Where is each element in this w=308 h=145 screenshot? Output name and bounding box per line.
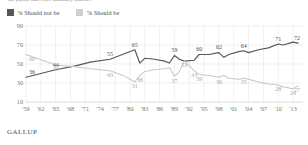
data-point-label: 27: [294, 87, 300, 93]
x-axis-tick-label: '74: [97, 105, 104, 112]
y-axis-tick-label: 90: [17, 22, 23, 29]
figure-subtitle: the public that were randomly asked...: [8, 0, 258, 2]
data-point-label: 37: [171, 78, 177, 84]
data-point-label: 62: [216, 44, 222, 50]
chart-figure: the public that were randomly asked... %…: [0, 0, 308, 145]
series-line-should-not-be: [26, 42, 298, 77]
x-axis-tick-label: '83: [141, 105, 148, 112]
data-point-label: 59: [171, 47, 177, 53]
x-axis-tick-label: '10: [275, 105, 282, 112]
x-axis-tick-label: '86: [156, 105, 163, 112]
chart-legend: % Should not be % Should be: [7, 8, 136, 17]
data-point-label: 36: [29, 69, 35, 75]
x-axis-tick-label: '04: [245, 105, 252, 112]
series-line-should-be: [26, 55, 298, 89]
line-chart-svg: 1030507090'59'62'65'68'71'74'77'80'83'86…: [0, 20, 308, 124]
x-axis-tick-label: '13: [289, 105, 296, 112]
x-axis-tick-label: '98: [215, 105, 222, 112]
data-point-label: 35: [241, 79, 247, 85]
data-point-label: 72: [294, 35, 300, 41]
x-axis-tick-label: '77: [111, 105, 118, 112]
x-axis-tick-label: '07: [260, 105, 267, 112]
legend-swatch-icon-light: [76, 9, 83, 16]
data-point-label: 60: [196, 46, 202, 52]
legend-label-should-not-be: % Should not be: [18, 10, 60, 16]
legend-item-should-not-be: % Should not be: [7, 9, 59, 16]
y-axis-tick-label: 50: [17, 60, 23, 67]
data-point-label: 64: [241, 43, 247, 49]
data-point-label: 31: [132, 83, 138, 89]
data-point-label: 49: [53, 66, 59, 72]
x-axis-tick-label: '95: [200, 105, 207, 112]
data-point-label: 36: [216, 79, 222, 85]
y-axis-tick-label: 30: [17, 79, 23, 86]
plot-area: 1030507090'59'62'65'68'71'74'77'80'83'86…: [0, 20, 308, 124]
data-point-label: 43: [107, 72, 113, 78]
x-axis-tick-label: '68: [67, 105, 74, 112]
x-axis-tick-label: '92: [186, 105, 193, 112]
data-point-label: 53: [181, 62, 187, 68]
data-point-label: 38: [137, 77, 143, 83]
x-axis-tick-label: '80: [126, 105, 133, 112]
y-axis-tick-label: 70: [17, 41, 23, 48]
data-point-label: 55: [107, 51, 113, 57]
gallup-logo: GALLUP: [7, 128, 37, 136]
x-axis-tick-label: '71: [82, 105, 89, 112]
data-point-label: 39: [196, 76, 202, 82]
legend-swatch-icon-dark: [7, 9, 14, 16]
x-axis-tick-label: '59: [22, 105, 29, 112]
x-axis-tick-label: '01: [230, 105, 237, 112]
legend-label-should-be: % Should be: [87, 10, 119, 16]
data-point-label: 71: [275, 36, 281, 42]
x-axis-tick-label: '89: [171, 105, 178, 112]
x-axis-tick-label: '62: [37, 105, 44, 112]
data-point-label: 28: [275, 86, 281, 92]
data-point-label: 65: [132, 42, 138, 48]
legend-item-should-be: % Should be: [76, 9, 119, 16]
x-axis-tick-label: '65: [52, 105, 59, 112]
data-point-label: 60: [29, 56, 35, 62]
